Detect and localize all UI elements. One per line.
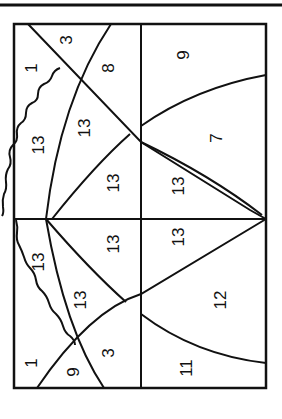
region-label: 13 (169, 228, 188, 247)
region-label: 13 (71, 291, 90, 310)
region-label: 13 (75, 119, 94, 138)
region-label: 7 (207, 133, 226, 142)
right-arc-lower (141, 314, 266, 363)
region-label: 9 (174, 50, 193, 59)
region-label: 13 (29, 136, 48, 155)
right-arc-upper (141, 75, 266, 126)
region-label: 12 (211, 291, 230, 310)
region-label: 11 (177, 359, 196, 377)
region-label: 9 (64, 367, 83, 376)
region-label: 8 (99, 63, 118, 72)
quilt-diagram: 3 1 8 9 13 13 7 13 13 13 13 13 13 12 3 1… (0, 0, 282, 419)
region-label: 3 (99, 348, 118, 357)
region-label: 1 (22, 63, 41, 72)
region-label: 13 (104, 174, 123, 193)
region-label: 13 (104, 235, 123, 254)
region-labels: 3 1 8 9 13 13 7 13 13 13 13 13 13 12 3 1… (22, 35, 230, 377)
region-label: 13 (169, 177, 188, 196)
inner-line-lower (46, 219, 126, 302)
region-label: 13 (29, 253, 48, 272)
region-label: 1 (22, 358, 41, 367)
region-label: 3 (57, 35, 76, 44)
